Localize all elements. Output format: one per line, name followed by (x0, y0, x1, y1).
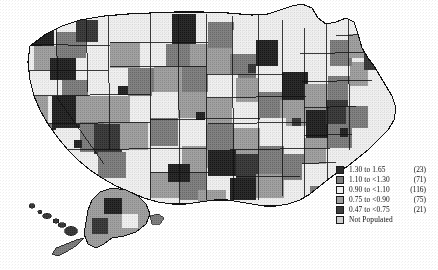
legend-count-label: (21) (402, 205, 426, 215)
legend-row: 1.10 to <1.30 (71) (336, 175, 436, 185)
legend-count-label: (71) (402, 175, 426, 185)
legend-row: 0.47 to <0.75 (21) (336, 205, 436, 215)
legend-not-populated-label: Not Populated (349, 215, 393, 225)
legend-range-label: 1.10 to <1.30 (349, 175, 402, 185)
us-choropleth-map (0, 0, 438, 270)
legend-swatch-class-5 (336, 206, 344, 214)
legend-swatch-class-4 (336, 196, 344, 204)
legend-count-label: (116) (402, 185, 426, 195)
legend-range-label: 0.90 to <1.10 (349, 185, 402, 195)
legend-row: 0.90 to <1.10 (116) (336, 185, 436, 195)
legend-swatch-class-1 (336, 166, 344, 174)
map-legend: 1.30 to 1.65 (23) 1.10 to <1.30 (71) 0.9… (336, 165, 436, 225)
legend-range-label: 0.75 to <0.90 (349, 195, 402, 205)
legend-count-label: (23) (402, 165, 426, 175)
legend-swatch-class-2 (336, 176, 344, 184)
legend-swatch-class-3 (336, 186, 344, 194)
legend-row-not-populated: Not Populated (336, 215, 436, 225)
legend-swatch-not-populated (336, 216, 344, 224)
legend-count-label: (75) (402, 195, 426, 205)
map-figure: 1.30 to 1.65 (23) 1.10 to <1.30 (71) 0.9… (0, 0, 438, 270)
legend-row: 1.30 to 1.65 (23) (336, 165, 436, 175)
legend-range-label: 0.47 to <0.75 (349, 205, 402, 215)
legend-range-label: 1.30 to 1.65 (349, 165, 402, 175)
legend-row: 0.75 to <0.90 (75) (336, 195, 436, 205)
